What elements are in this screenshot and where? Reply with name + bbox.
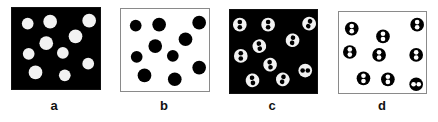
particle-icon — [262, 57, 278, 73]
particle-icon — [376, 30, 390, 44]
panel-c-box — [229, 9, 318, 94]
particle-icon — [300, 15, 317, 33]
particle-icon — [274, 71, 291, 88]
particle-icon — [345, 22, 359, 36]
particle-icon — [251, 38, 267, 54]
particle-icon — [192, 16, 206, 30]
particle-icon — [43, 15, 57, 29]
particles-layer — [339, 12, 426, 93]
particles-layer — [230, 10, 317, 93]
panel-b-box — [120, 8, 210, 92]
particle-icon — [192, 61, 206, 75]
particle-icon — [245, 72, 261, 88]
particle-icon — [57, 47, 69, 59]
panel-a-label: a — [44, 98, 64, 113]
particle-icon — [298, 64, 312, 78]
particle-icon — [131, 51, 143, 63]
particle-icon — [69, 29, 83, 43]
particle-icon — [29, 66, 43, 80]
particle-icon — [23, 48, 35, 60]
particle-icon — [372, 48, 386, 62]
particle-icon — [357, 72, 371, 86]
particles-layer — [121, 9, 209, 91]
panel-d-label: d — [372, 98, 392, 113]
particle-icon — [59, 69, 71, 81]
particle-icon — [409, 48, 423, 62]
particles-layer — [12, 8, 100, 89]
particle-icon — [82, 58, 94, 70]
particle-icon — [148, 39, 162, 53]
particle-icon — [410, 18, 424, 32]
particle-icon — [381, 73, 395, 87]
panel-c-label: c — [262, 98, 282, 113]
particle-icon — [409, 77, 423, 91]
particle-icon — [343, 45, 357, 59]
panel-b-label: b — [154, 98, 174, 113]
particle-icon — [130, 20, 142, 32]
particle-icon — [285, 32, 301, 48]
particle-icon — [179, 32, 193, 46]
particle-icon — [168, 72, 182, 86]
particle-icon — [152, 18, 166, 32]
particle-icon — [82, 14, 96, 28]
panel-d-box — [338, 11, 427, 94]
particle-icon — [167, 50, 179, 62]
particle-icon — [261, 18, 275, 32]
particle-icon — [39, 36, 53, 50]
particle-icon — [233, 18, 247, 32]
particle-icon — [22, 18, 34, 30]
panel-a-box — [11, 7, 101, 90]
particle-icon — [234, 49, 248, 63]
particle-icon — [138, 69, 152, 83]
